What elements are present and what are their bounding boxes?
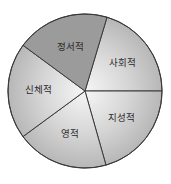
slice-label: 신체적 — [25, 84, 52, 95]
slice-label: 정서적 — [57, 41, 84, 52]
pie-chart: 사회적지성적영적신체적정서적 — [0, 0, 171, 184]
slice-label: 지성적 — [108, 112, 135, 123]
slice-label: 사회적 — [109, 57, 136, 68]
slice-label: 영적 — [61, 128, 79, 139]
